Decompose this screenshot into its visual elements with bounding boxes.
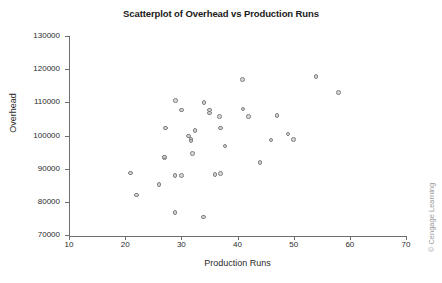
data-point [128, 171, 133, 176]
data-point [275, 113, 280, 118]
y-tick-label: 110000 [16, 97, 60, 106]
data-point [179, 173, 184, 178]
data-point [163, 126, 168, 131]
x-tick-label: 60 [335, 240, 365, 249]
data-point [258, 160, 263, 165]
x-tick-label: 20 [110, 240, 140, 249]
y-tick-label: 90000 [16, 164, 60, 173]
data-point [173, 98, 178, 103]
y-tick-label: 130000 [16, 31, 60, 40]
data-point [189, 139, 194, 144]
y-tick-mark [65, 69, 69, 70]
x-tick-label: 40 [223, 240, 253, 249]
data-point [217, 114, 222, 119]
data-point [193, 128, 198, 133]
data-point [240, 77, 245, 82]
y-tick-label: 80000 [16, 197, 60, 206]
y-tick-mark [65, 136, 69, 137]
data-point [179, 108, 184, 113]
x-tick-label: 30 [166, 240, 196, 249]
data-point [336, 90, 341, 95]
copyright-credit: © Cengage Learning [427, 169, 436, 267]
x-tick-label: 50 [279, 240, 309, 249]
y-tick-mark [65, 235, 69, 236]
data-point [173, 173, 178, 178]
scatter-chart: Scatterplot of Overhead vs Production Ru… [0, 0, 442, 283]
data-point [291, 137, 296, 142]
data-point [173, 210, 178, 215]
data-point [157, 182, 162, 187]
data-point [223, 144, 228, 149]
data-point [202, 100, 207, 105]
data-point [241, 107, 246, 112]
plot-area [69, 36, 406, 235]
data-point [269, 138, 274, 143]
data-point [134, 193, 139, 198]
x-tick-label: 10 [54, 240, 84, 249]
data-point [314, 74, 319, 79]
data-point [190, 151, 195, 156]
x-axis-label: Production Runs [69, 258, 406, 268]
y-tick-mark [65, 36, 69, 37]
data-point [218, 171, 223, 176]
data-point [246, 114, 251, 119]
data-point [218, 126, 223, 131]
data-point [213, 172, 218, 177]
y-tick-label: 70000 [16, 230, 60, 239]
data-point [201, 215, 206, 220]
data-point [207, 111, 212, 116]
y-axis-label: Overhead [8, 73, 18, 153]
y-tick-mark [65, 202, 69, 203]
data-point [286, 132, 291, 137]
y-tick-label: 100000 [16, 131, 60, 140]
data-point [162, 155, 167, 160]
chart-title: Scatterplot of Overhead vs Production Ru… [0, 8, 442, 19]
y-tick-mark [65, 169, 69, 170]
y-tick-mark [65, 102, 69, 103]
y-tick-label: 120000 [16, 64, 60, 73]
x-tick-label: 70 [391, 240, 421, 249]
